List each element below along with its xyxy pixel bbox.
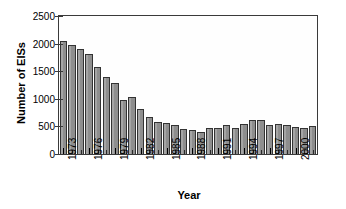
x-axis-tick — [184, 150, 185, 154]
y-axis-tick-inner — [59, 44, 63, 45]
y-axis-tick-label: 2000 — [33, 38, 55, 49]
plot-area: 0500100015002000250019731976197919821985… — [58, 15, 318, 155]
x-axis-tick — [141, 148, 142, 154]
x-axis-tick — [89, 148, 90, 154]
x-axis-tick-label: 1979 — [119, 138, 130, 160]
x-axis-tick-label: 1997 — [274, 138, 285, 160]
x-axis-tick-label: 1976 — [93, 138, 104, 160]
x-axis-tick — [210, 150, 211, 154]
x-axis-tick-label: 1973 — [67, 138, 78, 160]
x-axis-tick — [192, 148, 193, 154]
x-axis-tick — [235, 150, 236, 154]
x-axis-tick — [313, 150, 314, 154]
x-axis-tick-label: 1988 — [196, 138, 207, 160]
x-axis-tick — [115, 148, 116, 154]
x-axis-tick-label: 1994 — [248, 138, 259, 160]
y-axis-tick-inner — [59, 126, 63, 127]
y-axis-tick-label: 2500 — [33, 11, 55, 22]
y-axis-tick-label: 500 — [38, 121, 55, 132]
x-axis-tick-label: 1991 — [222, 138, 233, 160]
x-axis-tick — [218, 148, 219, 154]
x-axis-tick-label: 1985 — [171, 138, 182, 160]
x-axis-tick — [296, 148, 297, 154]
bar — [85, 54, 92, 154]
x-axis-tick — [106, 150, 107, 154]
x-axis-tick-label: 1982 — [145, 138, 156, 160]
chart-figure: Number of EISs 0500100015002000250019731… — [0, 0, 346, 209]
y-axis-tick-label: 1500 — [33, 66, 55, 77]
x-axis-title: Year — [58, 189, 320, 201]
x-axis-tick — [132, 150, 133, 154]
y-axis-tick-label: 1000 — [33, 93, 55, 104]
x-axis-tick — [287, 150, 288, 154]
y-axis-tick-inner — [59, 99, 63, 100]
y-axis-tick-inner — [59, 16, 63, 17]
x-axis-tick-label: 2000 — [300, 138, 311, 160]
y-axis-title: Number of EISs — [15, 18, 27, 148]
x-axis-tick — [270, 148, 271, 154]
x-axis-tick — [81, 150, 82, 154]
x-axis-tick — [261, 150, 262, 154]
x-axis-tick — [158, 150, 159, 154]
bar — [60, 41, 67, 154]
y-axis-tick-inner — [59, 154, 63, 155]
plot-inner — [59, 16, 317, 154]
bar — [111, 83, 118, 154]
x-axis-tick — [167, 148, 168, 154]
y-axis-tick-label: 0 — [49, 149, 55, 160]
x-axis-tick — [63, 148, 64, 154]
y-axis-tick-inner — [59, 71, 63, 72]
x-axis-tick — [244, 148, 245, 154]
